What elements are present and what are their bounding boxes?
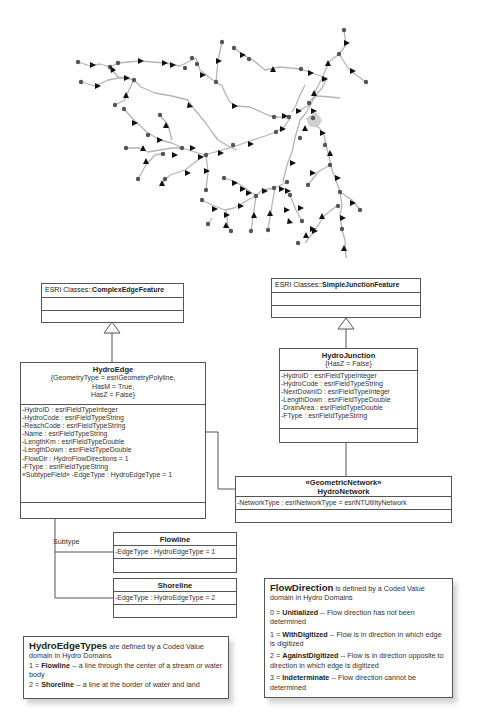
package-prefix: ESRI Classes:: (45, 286, 92, 293)
complex-edge-feature-class[interactable]: ESRI Classes::ComplexEdgeFeature (41, 283, 184, 323)
note-heading: HydroEdgeTypes are defined by a Coded Va… (29, 641, 223, 661)
class-header: HydroEdge {GeometryType = esriGeometryPo… (21, 363, 205, 405)
attributes-section: -HydroID : esriFieldTypeInteger -HydroCo… (21, 405, 205, 503)
attribute-drainarea: -DrainArea : esriFieldTypeDouble (281, 404, 416, 412)
attribute-lengthdown: -LengthDown : esriFieldTypeDouble (281, 396, 416, 404)
hydro-edge-class[interactable]: HydroEdge {GeometryType = esriGeometryPo… (20, 362, 206, 519)
class-name: HydroNetwork (236, 488, 451, 497)
attribute-hydrocode: -HydroCode : esriFieldTypeString (22, 414, 204, 422)
attribute-nextdownid: -NextDownID : esriFieldTypeInteger (281, 388, 416, 396)
note-item: 3 = Indeterminate -- Flow direction cann… (270, 673, 447, 692)
attribute-lengthdown: -LengthDown : esriFieldTypeDouble (22, 446, 204, 454)
item-name: Indeterminate (282, 673, 329, 682)
attribute-edgetype: -EdgeType : HydroEdgeType = 2 (115, 594, 235, 602)
class-name: SimpleJunctionFeature (322, 281, 399, 288)
shoreline-subtype-class[interactable]: Shoreline -EdgeType : HydroEdgeType = 2 (113, 578, 237, 618)
item-code: 2 = (29, 680, 41, 689)
item-code: 0 = (270, 608, 282, 617)
subtype-label: Subtype (53, 537, 79, 546)
operations-section (21, 503, 205, 518)
attribute-edgetype: «SubtypeField» -EdgeType : HydroEdgeType… (22, 471, 204, 479)
class-name: ComplexEdgeFeature (92, 286, 164, 293)
item-code: 1 = (270, 630, 282, 639)
attribute-hydroid: -HydroID : esriFieldTypeInteger (281, 372, 416, 380)
item-name: Shoreline (41, 680, 74, 689)
attribute-name: -Name : esriFieldTypeString (22, 430, 204, 438)
hydro-junction-class[interactable]: HydroJunction {HasZ = False} -HydroID : … (279, 348, 418, 443)
item-code: 1 = (29, 661, 41, 670)
class-header: HydroJunction {HasZ = False} (280, 349, 417, 371)
attribute-flowdir: -FlowDir : HydroFlowDirections = 1 (22, 455, 204, 463)
attributes-section: -EdgeType : HydroEdgeType = 1 (114, 546, 236, 559)
operations-section (114, 559, 236, 572)
tag-geometry-type: {GeometryType = esriGeometryPolyline, (21, 374, 205, 383)
flow-direction-note: FlowDirection is defined by a Coded Valu… (264, 578, 453, 698)
attribute-hydroid: -HydroID : esriFieldTypeInteger (22, 406, 204, 414)
class-name: Flowline (114, 533, 236, 546)
note-heading: FlowDirection is defined by a Coded Valu… (270, 583, 447, 603)
note-item: 1 = WithDigitized -- Flow is in directio… (270, 630, 447, 649)
note-heading-term: FlowDirection (270, 582, 333, 593)
simple-junction-feature-class[interactable]: ESRI Classes::SimpleJunctionFeature (271, 278, 421, 318)
package-prefix: ESRI Classes:: (275, 281, 322, 288)
attributes-section (272, 293, 420, 306)
attribute-ftype: -FType : esriFieldTypeString (281, 412, 416, 420)
operations-section (280, 429, 417, 442)
class-header: «GeometricNetwork» HydroNetwork (236, 477, 451, 497)
attributes-section: -NetworkType : esriNetworkType = esriNTU… (236, 497, 451, 510)
tag-hasz: {HasZ = False} (280, 360, 417, 371)
note-item: 0 = Unitialized -- Flow direction has no… (270, 608, 447, 627)
attributes-section: -HydroID : esriFieldTypeInteger -HydroCo… (280, 371, 417, 429)
attribute-networktype: -NetworkType : esriNetworkType = esriNTU… (237, 499, 450, 507)
attribute-edgetype: -EdgeType : HydroEdgeType = 1 (115, 548, 235, 556)
item-name: AgainstDigitized (282, 651, 338, 660)
class-title: ESRI Classes::SimpleJunctionFeature (272, 279, 420, 293)
attribute-ftype: -FType : esriFieldTypeString (22, 463, 204, 471)
operations-section (42, 311, 183, 322)
operations-section (272, 306, 420, 317)
item-desc: -- a line at the border of water and lan… (74, 680, 200, 689)
item-name: WithDigitized (282, 630, 327, 639)
item-name: Unitialized (282, 608, 318, 617)
note-heading-term: HydroEdgeTypes (29, 640, 107, 651)
attribute-hydrocode: -HydroCode : esriFieldTypeString (281, 380, 416, 388)
class-name: Shoreline (114, 579, 236, 592)
attributes-section (42, 298, 183, 311)
hydro-network-class[interactable]: «GeometricNetwork» HydroNetwork -Network… (235, 476, 452, 523)
operations-section (236, 510, 451, 522)
note-item: 2 = AgainstDigitized -- Flow is in direc… (270, 651, 447, 670)
class-name: HydroJunction (280, 349, 417, 360)
attributes-section: -EdgeType : HydroEdgeType = 2 (114, 592, 236, 605)
tag-hasz: HasZ = False} (21, 391, 205, 400)
attribute-lengthkm: -LengthKm : esriFieldTypeDouble (22, 438, 204, 446)
item-code: 3 = (270, 673, 282, 682)
tag-hasm: HasM = True, (21, 383, 205, 392)
item-code: 2 = (270, 651, 282, 660)
tagged-values: {GeometryType = esriGeometryPolyline, Ha… (21, 374, 205, 402)
stereotype: «GeometricNetwork» (236, 477, 451, 488)
operations-section (114, 605, 236, 617)
class-name: HydroEdge (21, 363, 205, 374)
attribute-reachcode: -ReachCode : esriFieldTypeString (22, 422, 204, 430)
note-item: 1 = Flowline -- a line through the cente… (29, 661, 223, 680)
class-title: ESRI Classes::ComplexEdgeFeature (42, 284, 183, 298)
note-item: 2 = Shoreline -- a line at the border of… (29, 680, 223, 689)
flowline-subtype-class[interactable]: Flowline -EdgeType : HydroEdgeType = 1 (113, 532, 237, 573)
item-name: Flowline (41, 661, 70, 670)
hydro-edge-types-note: HydroEdgeTypes are defined by a Coded Va… (23, 636, 229, 699)
